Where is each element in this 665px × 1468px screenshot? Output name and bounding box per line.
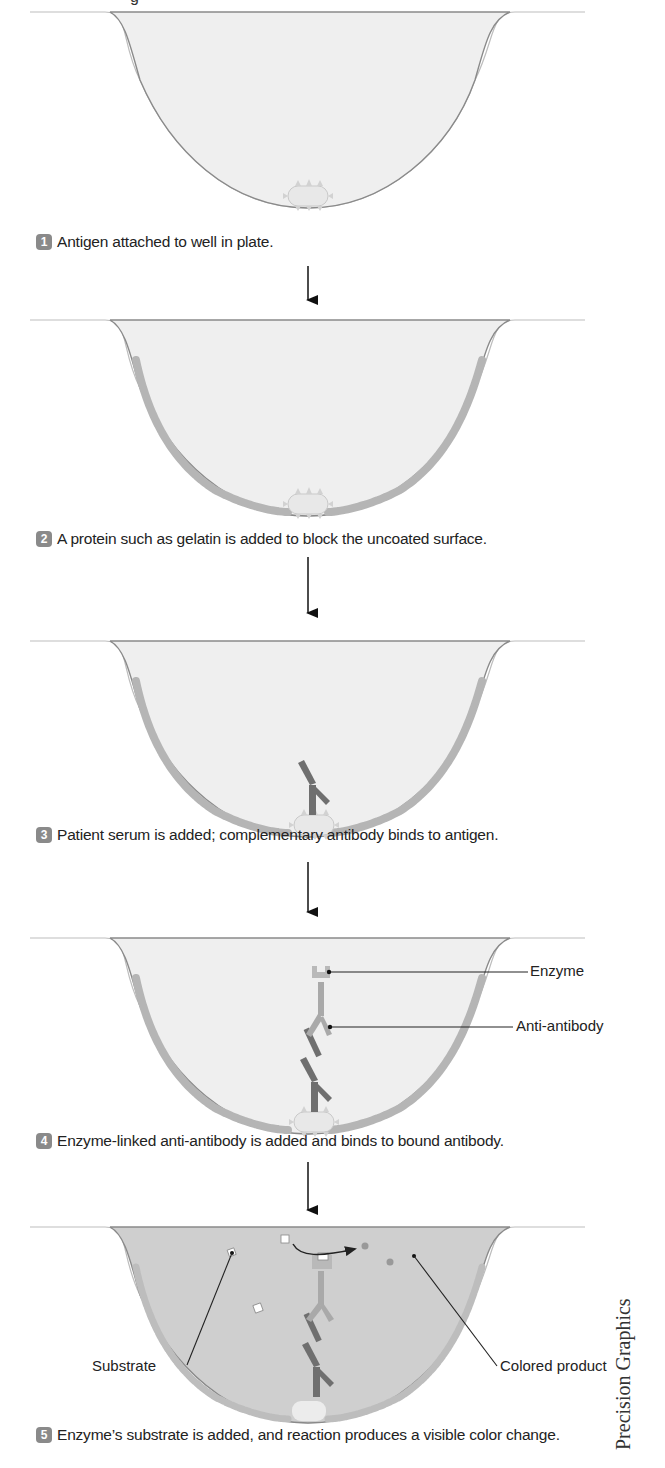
anti-antibody-label: Anti-antibody (516, 1017, 604, 1034)
step-2-badge: 2 (36, 531, 52, 547)
step-4-text: Enzyme-linked anti-antibody is added and… (57, 1132, 504, 1150)
well-step-4 (30, 938, 585, 1137)
step-5-badge: 5 (36, 1427, 52, 1443)
elisa-diagram: g (0, 0, 665, 1468)
step-2-text: A protein such as gelatin is added to bl… (57, 530, 487, 548)
colored-product-label: Colored product (500, 1357, 607, 1374)
well-step-3 (30, 641, 585, 840)
step-3-text: Patient serum is added; complementary an… (57, 826, 498, 844)
step-3-caption: 3 Patient serum is added; complementary … (36, 826, 498, 844)
step-5-text: Enzyme’s substrate is added, and reactio… (57, 1426, 560, 1444)
enzyme-label: Enzyme (530, 962, 584, 979)
step-1-text: Antigen attached to well in plate. (57, 233, 273, 251)
diagram-graphics (0, 0, 665, 1468)
substrate-label: Substrate (92, 1357, 156, 1374)
well-step-1 (30, 12, 585, 211)
step-4-badge: 4 (36, 1133, 52, 1149)
step-1-caption: 1 Antigen attached to well in plate. (36, 233, 273, 251)
step-4-caption: 4 Enzyme-linked anti-antibody is added a… (36, 1132, 504, 1150)
well-step-5 (30, 1227, 585, 1423)
step-3-badge: 3 (36, 827, 52, 843)
step-5-caption: 5 Enzyme’s substrate is added, and react… (36, 1426, 560, 1444)
step-1-badge: 1 (36, 234, 52, 250)
well-step-2 (30, 320, 585, 519)
credit-text: Precision Graphics (612, 1298, 635, 1450)
step-2-caption: 2 A protein such as gelatin is added to … (36, 530, 487, 548)
